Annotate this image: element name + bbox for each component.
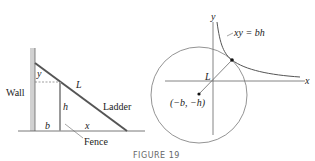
figure-19: Wall y L h Ladder b x Fence y x xy = bh …: [0, 0, 315, 161]
curve-label-leader: [227, 33, 233, 36]
wall-label: Wall: [6, 87, 25, 98]
center-point-label: (−b, −h): [170, 97, 206, 109]
segment-L: [199, 60, 232, 94]
figure-caption: FIGURE 19: [133, 151, 180, 160]
b-label: b: [45, 120, 50, 131]
x-axis-label: x: [304, 75, 310, 86]
h-label: h: [63, 101, 68, 112]
segment-L-label: L: [204, 71, 211, 82]
ladder-label: Ladder: [103, 101, 132, 112]
ladder-diagram: Wall y L h Ladder b x Fence: [6, 48, 145, 147]
curve-label: xy = bh: [233, 27, 265, 38]
fence-label: Fence: [84, 136, 108, 147]
y-label: y: [36, 68, 42, 79]
L-label: L: [75, 79, 82, 90]
tangent-point: [230, 58, 234, 62]
coordinate-diagram: y x xy = bh L (−b, −h): [151, 11, 310, 143]
x-label: x: [84, 120, 90, 131]
wall: [30, 48, 35, 131]
figure-svg: Wall y L h Ladder b x Fence y x xy = bh …: [0, 0, 315, 161]
center-point: [197, 92, 200, 95]
y-axis-label: y: [210, 11, 216, 22]
